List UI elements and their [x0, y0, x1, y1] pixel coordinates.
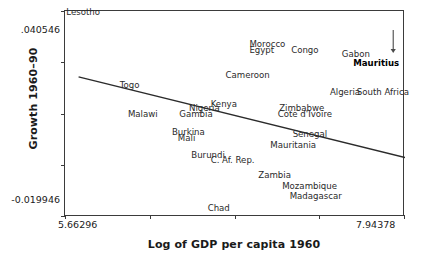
mauritius-annotation-arrow	[65, 11, 405, 217]
y-axis-tick-label-min: -0.019946	[11, 194, 60, 205]
x-axis-title: Log of GDP per capita 1960	[64, 238, 404, 251]
scatter-plot-figure: Growth 1960–90 Log of GDP per capita 196…	[0, 0, 422, 263]
x-axis-tick-label-max: 7.94378	[356, 219, 395, 230]
y-axis-tick-label-max: .040546	[21, 24, 60, 35]
plot-area: LesothoMoroccoEgyptCongoGabonMauritiusCa…	[64, 10, 404, 216]
y-axis-title: Growth 1960–90	[27, 19, 40, 179]
x-axis-tick-label-min: 5.66296	[58, 219, 97, 230]
